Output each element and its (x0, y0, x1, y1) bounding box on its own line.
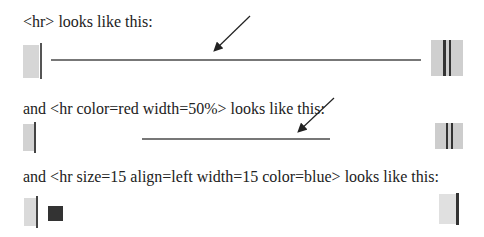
annotation-arrows (0, 0, 484, 237)
arrow-icon (215, 16, 250, 50)
arrow-icon (299, 98, 334, 131)
